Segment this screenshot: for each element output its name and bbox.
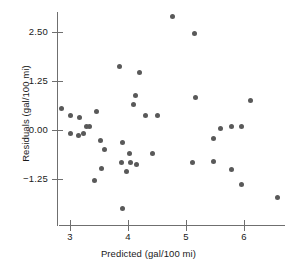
scatter-point [229,124,234,129]
scatter-point [68,131,73,136]
scatter-point [81,131,86,136]
scatter-point [150,151,155,156]
scatter-point [134,162,139,167]
residual-scatter-plot: 2.501.250.00−1.25 3456 Predicted (gal/10… [0,0,297,272]
scatter-point [239,124,244,129]
scatter-point [170,14,175,19]
scatter-point [92,178,97,183]
scatter-point [124,169,129,174]
scatter-point [143,113,148,118]
scatter-point [192,31,197,36]
scatter-point [155,113,160,118]
scatter-point [211,136,216,141]
scatter-point [77,115,82,120]
scatter-point [117,64,122,69]
scatter-point [211,159,216,164]
scatter-point [133,93,138,98]
scatter-point [76,133,81,138]
scatter-point [193,95,198,100]
scatter-point [229,167,234,172]
scatter-point [218,126,223,131]
scatter-point [275,195,280,200]
scatter-point [98,138,103,143]
scatter-point [239,182,244,187]
scatter-point [131,102,136,107]
scatter-point [190,160,195,165]
scatter-point [59,106,64,111]
scatter-point [128,160,133,165]
y-axis-title: Residuals (gal/100 mi) [20,34,31,194]
scatter-point [102,147,107,152]
x-axis-title: Predicted (gal/100 mi) [0,248,297,259]
scatter-point [119,160,124,165]
scatter-point [94,109,99,114]
scatter-point [127,151,132,156]
scatter-point [137,70,142,75]
data-points-layer [0,0,297,272]
scatter-point [248,98,253,103]
scatter-point [99,166,104,171]
scatter-point [68,113,73,118]
scatter-point [87,124,92,129]
scatter-point [120,206,125,211]
scatter-point [120,140,125,145]
